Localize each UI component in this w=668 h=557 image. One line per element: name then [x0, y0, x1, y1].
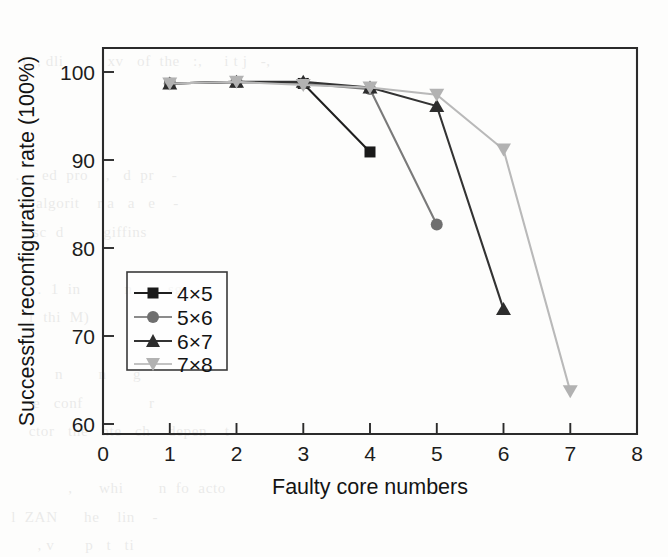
data-point-marker — [365, 146, 376, 157]
x-tick-label-0: 0 — [97, 442, 109, 465]
y-tick-label-80: 80 — [72, 237, 95, 260]
y-tick-label-70: 70 — [72, 325, 95, 348]
x-tick-label-4: 4 — [364, 442, 376, 465]
x-tick-label-8: 8 — [631, 442, 643, 465]
y-tick-label-100: 100 — [60, 61, 95, 84]
legend-label-4x5: 4×5 — [177, 282, 213, 305]
legend-marker-circle — [147, 311, 159, 323]
x-tick-label-3: 3 — [297, 442, 309, 465]
series-line — [170, 82, 370, 152]
legend-marker-square — [148, 288, 159, 299]
x-tick-label-7: 7 — [564, 442, 576, 465]
y-axis-tick-labels: 100 90 80 70 60 — [60, 61, 95, 436]
plot-frame — [103, 48, 637, 434]
data-point-marker — [563, 385, 578, 398]
x-tick-label-5: 5 — [431, 442, 443, 465]
data-point-marker — [431, 218, 443, 230]
x-axis-title: Faulty core numbers — [272, 475, 468, 499]
legend-label-5x6: 5×6 — [177, 306, 213, 329]
x-tick-label-6: 6 — [498, 442, 510, 465]
x-tick-label-2: 2 — [231, 442, 243, 465]
y-tick-label-60: 60 — [72, 413, 95, 436]
legend-label-7x8: 7×8 — [177, 353, 213, 376]
x-axis-ticks — [103, 423, 637, 434]
legend-label-6x7: 6×7 — [177, 330, 213, 353]
y-axis-title: Successful reconfiguration rate (100%) — [15, 56, 39, 426]
x-axis-tick-labels: 0 1 2 3 4 5 6 7 8 — [97, 442, 643, 465]
y-tick-label-90: 90 — [72, 149, 95, 172]
series-4×5 — [164, 76, 375, 157]
series-line — [170, 82, 437, 225]
y-axis-ticks — [103, 72, 114, 424]
series-5×6 — [164, 76, 443, 231]
x-tick-label-1: 1 — [164, 442, 176, 465]
legend: 4×5 5×6 6×7 7×8 — [127, 272, 227, 376]
data-point-marker — [496, 302, 511, 315]
data-point-marker — [496, 144, 511, 157]
series-line — [170, 82, 571, 391]
